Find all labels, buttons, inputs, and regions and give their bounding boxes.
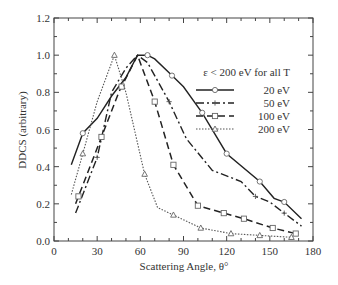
y-tick-label: 0.2 — [36, 198, 50, 210]
legend-label-50ev: 50 eV — [263, 97, 290, 109]
legend-swatch-200ev — [196, 126, 234, 131]
y-tick-label: 0.8 — [36, 86, 50, 98]
x-tick-label: 60 — [135, 245, 147, 257]
legend-title: ε < 200 eV for all T — [203, 66, 290, 78]
y-axis-label: DDCS (arbitrary) — [16, 91, 29, 169]
x-tick-label: 90 — [178, 245, 190, 257]
legend-label-200ev: 200 eV — [258, 123, 290, 135]
x-tick-label: 0 — [51, 245, 57, 257]
series-100ev — [76, 55, 299, 236]
legend-label-100ev: 100 eV — [258, 110, 290, 122]
legend-swatch-20ev — [196, 87, 234, 92]
plot-series — [71, 52, 301, 239]
x-tick-label: 120 — [218, 245, 235, 257]
y-tick-label: 1.0 — [36, 49, 50, 61]
ddcs-chart: 03060901201501800.00.20.40.60.81.01.2 ε … — [0, 0, 338, 285]
series-200ev — [71, 52, 294, 239]
legend: ε < 200 eV for all T 20 eV 50 eV 100 eV … — [196, 66, 290, 135]
y-tick-label: 1.2 — [36, 12, 50, 24]
legend-label-20ev: 20 eV — [263, 84, 290, 96]
y-tick-label: 0.0 — [36, 235, 50, 247]
x-tick-label: 30 — [92, 245, 104, 257]
x-tick-label: 180 — [305, 245, 322, 257]
x-tick-label: 150 — [262, 245, 279, 257]
x-axis-label: Scattering Angle, θ° — [140, 260, 229, 272]
y-tick-label: 0.6 — [36, 124, 50, 136]
y-tick-label: 0.4 — [36, 161, 50, 173]
legend-swatch-50ev — [196, 100, 234, 105]
series-50ev — [76, 55, 302, 226]
